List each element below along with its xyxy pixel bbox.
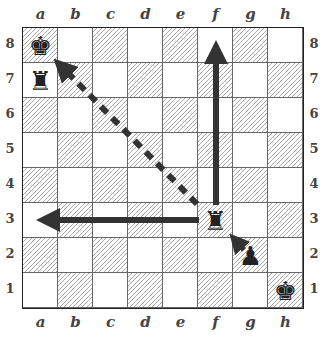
rank-label-1: 1 xyxy=(0,281,20,296)
black-rook-icon[interactable]: ♜ xyxy=(23,63,58,98)
square-f6[interactable] xyxy=(198,98,233,133)
rank-label-3: 3 xyxy=(0,211,20,226)
square-b8[interactable] xyxy=(58,28,93,63)
square-e8[interactable] xyxy=(163,28,198,63)
black-rook-icon[interactable]: ♜ xyxy=(198,203,233,238)
square-g3[interactable] xyxy=(233,203,268,238)
square-e4[interactable] xyxy=(163,168,198,203)
square-d3[interactable] xyxy=(128,203,163,238)
square-b7[interactable] xyxy=(58,63,93,98)
square-c4[interactable] xyxy=(93,168,128,203)
square-h5[interactable] xyxy=(268,133,303,168)
square-a5[interactable] xyxy=(23,133,58,168)
square-h8[interactable] xyxy=(268,28,303,63)
square-d2[interactable] xyxy=(128,238,163,273)
file-label-d: d xyxy=(128,5,163,23)
square-g6[interactable] xyxy=(233,98,268,133)
square-d6[interactable] xyxy=(128,98,163,133)
file-label-f: f xyxy=(198,313,233,331)
square-d8[interactable] xyxy=(128,28,163,63)
square-d7[interactable] xyxy=(128,63,163,98)
square-f7[interactable] xyxy=(198,63,233,98)
file-label-c: c xyxy=(93,313,128,331)
file-label-h: h xyxy=(268,313,303,331)
file-label-h: h xyxy=(268,5,303,23)
rank-label-4: 4 xyxy=(0,176,20,191)
square-e2[interactable] xyxy=(163,238,198,273)
rank-label-6: 6 xyxy=(304,106,324,121)
square-f5[interactable] xyxy=(198,133,233,168)
square-h7[interactable] xyxy=(268,63,303,98)
rank-label-8: 8 xyxy=(304,36,324,51)
rank-label-7: 7 xyxy=(304,71,324,86)
rank-label-4: 4 xyxy=(304,176,324,191)
square-a1[interactable] xyxy=(23,273,58,308)
square-c6[interactable] xyxy=(93,98,128,133)
square-c3[interactable] xyxy=(93,203,128,238)
square-f4[interactable] xyxy=(198,168,233,203)
black-king-icon[interactable]: ♚ xyxy=(268,273,303,308)
square-f1[interactable] xyxy=(198,273,233,308)
square-a4[interactable] xyxy=(23,168,58,203)
square-e1[interactable] xyxy=(163,273,198,308)
rank-label-3: 3 xyxy=(304,211,324,226)
rank-label-1: 1 xyxy=(304,281,324,296)
file-label-e: e xyxy=(163,5,198,23)
file-label-c: c xyxy=(93,5,128,23)
file-label-a: a xyxy=(23,313,58,331)
square-e6[interactable] xyxy=(163,98,198,133)
black-pawn-icon[interactable]: ♟ xyxy=(233,238,268,273)
black-king-icon[interactable]: ♚ xyxy=(23,28,58,63)
rank-label-6: 6 xyxy=(0,106,20,121)
square-f8[interactable] xyxy=(198,28,233,63)
file-label-g: g xyxy=(233,313,268,331)
file-label-f: f xyxy=(198,5,233,23)
file-label-b: b xyxy=(58,313,93,331)
square-g4[interactable] xyxy=(233,168,268,203)
square-e3[interactable] xyxy=(163,203,198,238)
square-b5[interactable] xyxy=(58,133,93,168)
square-b4[interactable] xyxy=(58,168,93,203)
square-g8[interactable] xyxy=(233,28,268,63)
file-label-d: d xyxy=(128,313,163,331)
rank-label-8: 8 xyxy=(0,36,20,51)
rank-label-2: 2 xyxy=(304,246,324,261)
square-c8[interactable] xyxy=(93,28,128,63)
square-d5[interactable] xyxy=(128,133,163,168)
square-c2[interactable] xyxy=(93,238,128,273)
square-d4[interactable] xyxy=(128,168,163,203)
square-h3[interactable] xyxy=(268,203,303,238)
square-g7[interactable] xyxy=(233,63,268,98)
square-b6[interactable] xyxy=(58,98,93,133)
rank-label-5: 5 xyxy=(304,141,324,156)
square-a6[interactable] xyxy=(23,98,58,133)
square-h2[interactable] xyxy=(268,238,303,273)
file-label-a: a xyxy=(23,5,58,23)
file-label-g: g xyxy=(233,5,268,23)
square-h6[interactable] xyxy=(268,98,303,133)
square-c7[interactable] xyxy=(93,63,128,98)
square-b3[interactable] xyxy=(58,203,93,238)
square-e5[interactable] xyxy=(163,133,198,168)
rank-label-7: 7 xyxy=(0,71,20,86)
square-a2[interactable] xyxy=(23,238,58,273)
rank-label-2: 2 xyxy=(0,246,20,261)
square-g5[interactable] xyxy=(233,133,268,168)
square-g1[interactable] xyxy=(233,273,268,308)
chess-board: ♚♜♜♟♚ xyxy=(22,27,304,309)
file-label-b: b xyxy=(58,5,93,23)
square-e7[interactable] xyxy=(163,63,198,98)
rank-label-5: 5 xyxy=(0,141,20,156)
square-a3[interactable] xyxy=(23,203,58,238)
square-b1[interactable] xyxy=(58,273,93,308)
square-b2[interactable] xyxy=(58,238,93,273)
file-label-e: e xyxy=(163,313,198,331)
square-h4[interactable] xyxy=(268,168,303,203)
square-c5[interactable] xyxy=(93,133,128,168)
square-c1[interactable] xyxy=(93,273,128,308)
square-d1[interactable] xyxy=(128,273,163,308)
square-f2[interactable] xyxy=(198,238,233,273)
